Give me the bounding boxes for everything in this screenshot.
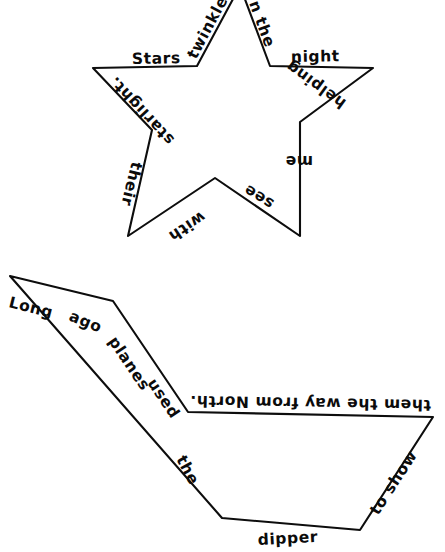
star-text-group: Stars twinkle n the night helping me see… [106,0,350,245]
star-word-in-the: n the [245,0,278,50]
dipper-word-to-show: to show [366,447,421,518]
dipper-word-the: the [172,452,202,488]
dipper-word-used: used [144,375,184,422]
drawing-surface: Stars twinkle n the night helping me see… [0,0,445,552]
star-word-twinkle: twinkle [184,0,232,62]
dipper-word-long: Long [7,293,55,321]
dipper-text-group: Long ago planes used the dipper to show … [7,293,431,549]
star-word-starlight: starlight. [106,73,178,149]
star-word-see: see [240,181,277,213]
star-word-me: me [285,152,313,170]
dipper-word-dipper: dipper [257,528,318,549]
dipper-phrase-them-the-way-from-north: them the way from North. [190,392,432,414]
star-word-with: with [165,208,209,246]
star-word-their: their [117,160,145,208]
star-word-stars: Stars [132,49,181,68]
worksheet-canvas: Stars twinkle n the night helping me see… [0,0,445,552]
dipper-word-ago: ago [67,307,105,336]
